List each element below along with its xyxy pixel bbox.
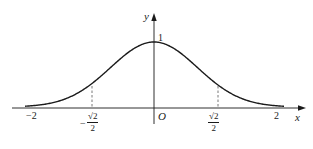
x-axis-label: x — [295, 112, 300, 123]
fraction-numerator: √2 — [208, 112, 219, 123]
x-tick-neg-sqrt2-over-2: √2 2 — [87, 112, 98, 133]
origin-label: O — [158, 111, 166, 122]
fraction-denominator: 2 — [208, 123, 219, 133]
minus-sign: − — [80, 119, 86, 129]
x-tick-pos-two: 2 — [274, 111, 279, 121]
y-tick-one: 1 — [158, 33, 163, 43]
y-axis-arrow-icon — [151, 13, 156, 21]
bell-curve — [25, 42, 284, 106]
fraction-numerator: √2 — [87, 112, 98, 123]
x-tick-neg-two: −2 — [26, 111, 37, 121]
fraction-denominator: 2 — [87, 123, 98, 133]
bell-curve-plot — [0, 0, 313, 149]
y-axis-label: y — [144, 11, 149, 22]
x-axis-arrow-icon — [298, 105, 306, 110]
x-tick-pos-sqrt2-over-2: √2 2 — [208, 112, 219, 133]
